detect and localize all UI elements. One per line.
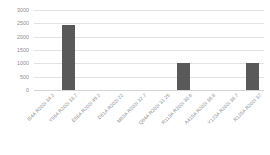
y-axis-tick-label: 3000 bbox=[17, 7, 29, 13]
bar bbox=[177, 63, 190, 90]
y-axis-tick-label: 500 bbox=[20, 74, 29, 80]
plot-area bbox=[34, 10, 264, 90]
y-axis-tick-label: 2500 bbox=[17, 20, 29, 26]
y-axis-tick-label: 1000 bbox=[17, 60, 29, 66]
gridline bbox=[34, 10, 264, 11]
y-axis-tick-label: 1500 bbox=[17, 47, 29, 53]
bar-chart: 050010001500200025003000 I54A R202i 34.2… bbox=[0, 0, 270, 155]
bar bbox=[246, 63, 259, 90]
gridline bbox=[34, 23, 264, 24]
bar bbox=[62, 25, 75, 90]
y-axis-tick-label: 0 bbox=[26, 87, 29, 93]
y-axis-tick-label: 2000 bbox=[17, 34, 29, 40]
x-axis: I54A R202i 34.2Y56A R202i 33.7E58A R202i… bbox=[34, 90, 264, 155]
y-axis: 050010001500200025003000 bbox=[0, 10, 32, 90]
